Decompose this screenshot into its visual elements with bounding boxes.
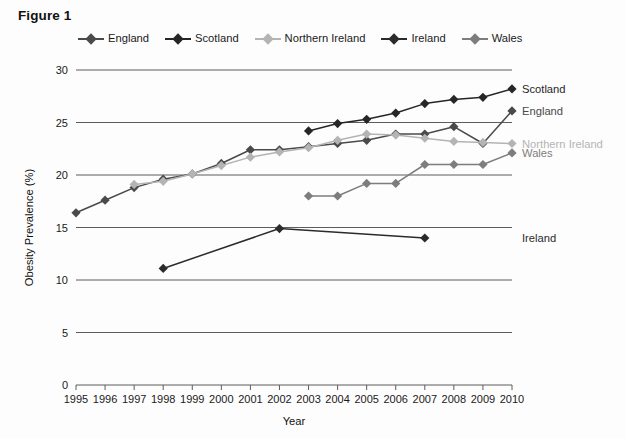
data-point-marker	[507, 148, 516, 157]
y-axis-tick-label: 25	[56, 117, 68, 129]
x-axis-tick-label: 2005	[354, 393, 378, 405]
x-axis-tick-label: 1996	[93, 393, 117, 405]
data-point-marker	[478, 160, 487, 169]
series-end-label-england: England	[522, 105, 563, 117]
data-point-marker	[275, 224, 284, 233]
data-point-marker	[449, 122, 458, 131]
series-end-label-scotland: Scotland	[522, 83, 566, 95]
data-point-marker	[333, 191, 342, 200]
series-line-england	[76, 111, 512, 213]
series-wales	[304, 148, 517, 200]
data-point-marker	[449, 137, 458, 146]
series-england	[71, 106, 516, 217]
data-point-marker	[304, 191, 313, 200]
data-point-marker	[362, 129, 371, 138]
data-point-marker	[507, 84, 516, 93]
y-axis-tick-label: 15	[56, 222, 68, 234]
x-axis-tick-label: 1998	[151, 393, 175, 405]
data-point-marker	[188, 169, 197, 178]
data-point-marker	[449, 95, 458, 104]
data-point-marker	[304, 126, 313, 135]
x-axis-tick-label: 2002	[267, 393, 291, 405]
line-chart-plot: 0510152025301995199619971998199920002001…	[0, 0, 626, 439]
data-point-marker	[391, 108, 400, 117]
data-point-marker	[391, 179, 400, 188]
data-point-marker	[449, 160, 458, 169]
series-line-ireland	[163, 229, 425, 269]
figure-container: Figure 1 EnglandScotlandNorthern Ireland…	[0, 0, 626, 439]
data-point-marker	[420, 160, 429, 169]
data-point-marker	[304, 143, 313, 152]
x-axis-tick-label: 2007	[413, 393, 437, 405]
x-axis-tick-label: 2003	[296, 393, 320, 405]
x-axis-title: Year	[283, 415, 306, 427]
series-end-label-wales: Wales	[522, 147, 553, 159]
data-point-marker	[100, 196, 109, 205]
y-axis-tick-label: 5	[62, 327, 68, 339]
x-axis-tick-label: 2010	[500, 393, 524, 405]
x-axis-tick-label: 1997	[122, 393, 146, 405]
x-axis-tick-label: 1999	[180, 393, 204, 405]
series-scotland	[304, 84, 517, 135]
series-line-wales	[309, 153, 512, 196]
x-axis-tick-label: 1995	[64, 393, 88, 405]
y-axis-tick-label: 0	[62, 379, 68, 391]
y-axis-tick-label: 20	[56, 169, 68, 181]
x-axis-tick-label: 2009	[471, 393, 495, 405]
data-point-marker	[420, 233, 429, 242]
x-axis-tick-label: 2000	[209, 393, 233, 405]
data-point-marker	[478, 93, 487, 102]
data-point-marker	[362, 179, 371, 188]
series-northern-ireland	[130, 129, 517, 189]
x-axis-tick-label: 2008	[442, 393, 466, 405]
y-axis-title: Obesity Prevalence (%)	[23, 168, 35, 286]
data-point-marker	[159, 264, 168, 273]
x-axis-tick-label: 2004	[325, 393, 349, 405]
series-end-label-ireland: Ireland	[522, 232, 556, 244]
y-axis-tick-label: 10	[56, 274, 68, 286]
data-point-marker	[246, 153, 255, 162]
data-point-marker	[71, 208, 80, 217]
x-axis-tick-label: 2001	[238, 393, 262, 405]
series-ireland	[159, 224, 430, 273]
data-point-marker	[420, 99, 429, 108]
y-axis-tick-label: 30	[56, 64, 68, 76]
x-axis-tick-label: 2006	[383, 393, 407, 405]
data-point-marker	[391, 131, 400, 140]
data-point-marker	[507, 139, 516, 148]
data-point-marker	[333, 119, 342, 128]
